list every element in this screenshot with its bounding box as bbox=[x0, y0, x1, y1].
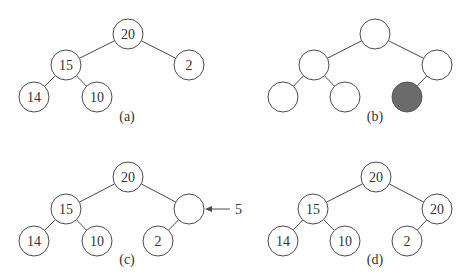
tree-node: 20 bbox=[113, 19, 143, 49]
tree-node: 20 bbox=[422, 194, 452, 224]
tree-node bbox=[268, 82, 298, 112]
tree-edge bbox=[324, 220, 335, 231]
tree-node: 14 bbox=[19, 82, 49, 112]
node-circle bbox=[268, 82, 298, 112]
tree-node: 10 bbox=[82, 226, 112, 256]
node-circle bbox=[422, 50, 452, 80]
tree-node: 14 bbox=[19, 226, 49, 256]
node-value: 20 bbox=[121, 27, 135, 42]
tree-node bbox=[360, 19, 390, 49]
tree-edge bbox=[388, 41, 423, 59]
node-value: 14 bbox=[276, 234, 290, 249]
tree-edge bbox=[141, 41, 175, 58]
tree-edge bbox=[79, 184, 114, 202]
node-value: 2 bbox=[404, 234, 411, 249]
node-value: 14 bbox=[27, 90, 41, 105]
node-value: 10 bbox=[90, 234, 104, 249]
heap-insertion-figure: 201521410(a)(b)2015141025(c)20152014102(… bbox=[0, 0, 470, 276]
tree-node: 20 bbox=[361, 162, 391, 192]
panel-d: 20152014102(d) bbox=[268, 162, 452, 268]
node-circle bbox=[330, 82, 360, 112]
tree-edge bbox=[76, 76, 86, 86]
tree-node: 15 bbox=[51, 50, 81, 80]
tree-edge bbox=[417, 220, 426, 230]
highlighted-node-circle bbox=[392, 82, 422, 112]
arrow-head-icon bbox=[205, 206, 212, 212]
panel-caption: (b) bbox=[367, 109, 384, 125]
node-value: 15 bbox=[59, 58, 73, 73]
tree-node: 15 bbox=[298, 194, 328, 224]
node-value: 2 bbox=[155, 234, 162, 249]
node-value: 10 bbox=[338, 234, 352, 249]
tree-edge bbox=[324, 76, 334, 86]
tree-node bbox=[299, 50, 329, 80]
tree-node: 14 bbox=[268, 226, 298, 256]
tree-edge bbox=[141, 184, 175, 202]
panel-a: 201521410(a) bbox=[19, 19, 204, 125]
tree-edge bbox=[326, 184, 362, 202]
tree-node: 10 bbox=[82, 82, 112, 112]
tree-node: 2 bbox=[143, 226, 173, 256]
tree-edge bbox=[417, 76, 426, 86]
tree-node: 2 bbox=[392, 226, 422, 256]
node-value: 20 bbox=[430, 202, 444, 217]
node-value: 2 bbox=[186, 58, 193, 73]
panel-c: 2015141025(c) bbox=[19, 162, 242, 268]
tree-node bbox=[392, 82, 422, 112]
panel-caption: (a) bbox=[119, 109, 135, 125]
node-value: 14 bbox=[27, 234, 41, 249]
tree-edge bbox=[293, 220, 302, 230]
node-value: 20 bbox=[369, 170, 383, 185]
node-circle bbox=[299, 50, 329, 80]
node-value: 20 bbox=[121, 170, 135, 185]
tree-edge bbox=[168, 220, 178, 230]
tree-node bbox=[422, 50, 452, 80]
tree-node bbox=[330, 82, 360, 112]
panel-caption: (c) bbox=[119, 252, 135, 268]
node-circle bbox=[174, 194, 204, 224]
node-value: 15 bbox=[306, 202, 320, 217]
tree-edge bbox=[79, 41, 114, 59]
tree-edge bbox=[45, 220, 56, 231]
diagram-svg: 201521410(a)(b)2015141025(c)20152014102(… bbox=[0, 0, 470, 276]
tree-edge bbox=[45, 76, 56, 87]
node-value: 15 bbox=[59, 202, 73, 217]
node-value: 10 bbox=[90, 90, 104, 105]
tree-node bbox=[174, 194, 204, 224]
panel-caption: (d) bbox=[367, 252, 384, 268]
tree-node: 20 bbox=[113, 162, 143, 192]
tree-edge bbox=[389, 184, 423, 202]
panel-b: (b) bbox=[268, 19, 452, 125]
tree-node: 2 bbox=[174, 50, 204, 80]
inserted-value: 5 bbox=[235, 202, 242, 217]
tree-node: 15 bbox=[51, 194, 81, 224]
tree-edge bbox=[293, 76, 303, 86]
tree-edge bbox=[76, 220, 86, 230]
tree-edge bbox=[327, 41, 361, 58]
node-circle bbox=[360, 19, 390, 49]
tree-node: 10 bbox=[330, 226, 360, 256]
